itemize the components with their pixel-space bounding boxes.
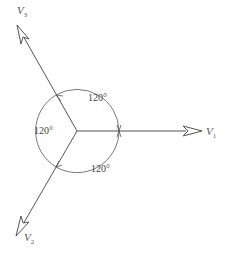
label-v1: V1 xyxy=(206,125,216,140)
arrowhead-v3-icon xyxy=(17,25,29,44)
phasor-v3-line xyxy=(22,34,77,131)
angle-label-v1-v3: 120° xyxy=(88,92,107,103)
label-v2: V2 xyxy=(24,231,34,246)
label-v3: V3 xyxy=(17,4,27,19)
phasor-v2-line xyxy=(22,131,77,226)
angle-label-v3-v2: 120° xyxy=(34,125,53,136)
angle-label-v2-v1: 120° xyxy=(91,163,110,174)
